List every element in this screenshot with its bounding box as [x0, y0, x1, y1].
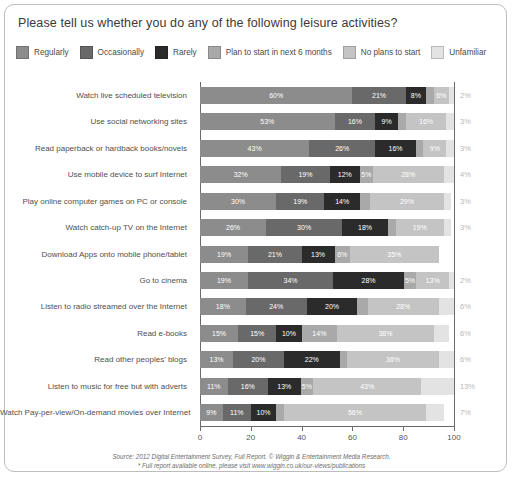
- bar-segment[interactable]: [444, 193, 452, 210]
- bar-segment[interactable]: 14%: [302, 325, 338, 342]
- category-label: Use social networking sites: [0, 113, 193, 130]
- bar-segment[interactable]: 9%: [375, 113, 398, 130]
- legend-occasionally[interactable]: Occasionally: [80, 46, 144, 59]
- bar-segment[interactable]: 53%: [200, 113, 335, 130]
- table-row[interactable]: 15%15%10%14%38%: [200, 325, 454, 342]
- bar-segment[interactable]: 19%: [281, 166, 329, 183]
- bar-segment[interactable]: 26%: [309, 140, 375, 157]
- bar-segment[interactable]: [439, 351, 454, 368]
- bar-segment[interactable]: [444, 219, 452, 236]
- bar-segment[interactable]: 19%: [200, 246, 248, 263]
- bar-segment[interactable]: [426, 87, 434, 104]
- bar-segment[interactable]: 60%: [200, 87, 352, 104]
- bar-segment[interactable]: [439, 298, 454, 315]
- bar-segment[interactable]: 16%: [375, 140, 416, 157]
- legend-no-plans[interactable]: No plans to start: [343, 46, 421, 59]
- table-row[interactable]: 19%21%13%6%35%: [200, 246, 454, 263]
- bar-segment[interactable]: 16%: [406, 113, 447, 130]
- bar-segment[interactable]: 12%: [330, 166, 360, 183]
- bar-segment[interactable]: 5%: [404, 272, 417, 289]
- bar-segment[interactable]: 21%: [248, 246, 301, 263]
- bar-segment[interactable]: [444, 166, 454, 183]
- bar-segment[interactable]: 9%: [200, 404, 223, 421]
- bar-segment[interactable]: 8%: [406, 87, 426, 104]
- bar-segment[interactable]: 34%: [248, 272, 334, 289]
- bar-segment[interactable]: 30%: [266, 219, 342, 236]
- bar-segment[interactable]: 16%: [335, 113, 376, 130]
- bar-segment[interactable]: 43%: [200, 140, 309, 157]
- bar-segment[interactable]: [446, 140, 454, 157]
- bar-segment[interactable]: 13%: [302, 246, 335, 263]
- bar-segment[interactable]: 13%: [268, 378, 301, 395]
- table-row[interactable]: 13%20%22%36%: [200, 351, 454, 368]
- bar-segment[interactable]: 22%: [284, 351, 340, 368]
- bar-segment[interactable]: 16%: [228, 378, 268, 395]
- bar-segment[interactable]: 20%: [233, 351, 284, 368]
- bar-segment[interactable]: 56%: [284, 404, 426, 421]
- bar-segment[interactable]: 14%: [324, 193, 360, 210]
- bar-segment[interactable]: 18%: [200, 298, 246, 315]
- table-row[interactable]: 30%19%14%29%: [200, 193, 454, 210]
- bar-segment[interactable]: [388, 219, 396, 236]
- bar-segment[interactable]: [446, 113, 454, 130]
- table-row[interactable]: 19%34%28%5%13%: [200, 272, 454, 289]
- x-axis-tick: [251, 426, 252, 431]
- bar-segment[interactable]: [276, 404, 284, 421]
- bar-segment[interactable]: [449, 272, 454, 289]
- table-row[interactable]: 53%16%9%16%: [200, 113, 454, 130]
- bar-segment[interactable]: 6%: [434, 87, 449, 104]
- bar-segment[interactable]: [416, 140, 424, 157]
- bar-segment[interactable]: 28%: [373, 166, 444, 183]
- bar-segment[interactable]: [340, 351, 348, 368]
- bar-segment[interactable]: 20%: [307, 298, 358, 315]
- category-label: Read e-books: [0, 325, 193, 342]
- bar-segment[interactable]: [398, 113, 406, 130]
- bar-segment[interactable]: 38%: [337, 325, 434, 342]
- bar-segment[interactable]: 21%: [352, 87, 405, 104]
- bar-segment[interactable]: 19%: [200, 272, 248, 289]
- legend-rarely[interactable]: Rarely: [155, 46, 197, 59]
- bar-segment[interactable]: 24%: [246, 298, 307, 315]
- bar-segment[interactable]: 32%: [200, 166, 281, 183]
- table-row[interactable]: 32%19%12%5%28%: [200, 166, 454, 183]
- bar-segment[interactable]: [360, 193, 370, 210]
- bar-segment[interactable]: 5%: [301, 378, 314, 395]
- bar-segment[interactable]: [421, 378, 454, 395]
- table-row[interactable]: 60%21%8%6%: [200, 87, 454, 104]
- bar-segment[interactable]: 26%: [200, 219, 266, 236]
- table-row[interactable]: 9%11%10%56%: [200, 404, 454, 421]
- bar-segment[interactable]: 6%: [335, 246, 350, 263]
- bar-segment[interactable]: 29%: [370, 193, 444, 210]
- bar-segment[interactable]: 11%: [223, 404, 251, 421]
- bar-segment[interactable]: 18%: [342, 219, 388, 236]
- bar-segment[interactable]: 43%: [313, 378, 421, 395]
- bar-segment[interactable]: 19%: [396, 219, 444, 236]
- bar-segment[interactable]: 5%: [360, 166, 373, 183]
- bar-segment[interactable]: 15%: [238, 325, 276, 342]
- bar-segment[interactable]: 35%: [350, 246, 439, 263]
- bar-segment[interactable]: 15%: [200, 325, 238, 342]
- table-row[interactable]: 11%16%13%5%43%: [200, 378, 454, 395]
- legend-regularly[interactable]: Regularly: [16, 46, 69, 59]
- bar-segment[interactable]: 10%: [276, 325, 301, 342]
- bar-segment[interactable]: [426, 404, 444, 421]
- table-row[interactable]: 43%26%16%9%: [200, 140, 454, 157]
- bar-segment[interactable]: [434, 325, 449, 342]
- table-row[interactable]: 26%30%18%19%: [200, 219, 454, 236]
- bar-segment[interactable]: 10%: [251, 404, 276, 421]
- bar-segment[interactable]: 13%: [416, 272, 449, 289]
- bar-segment[interactable]: [357, 298, 367, 315]
- bar-segment[interactable]: 11%: [200, 378, 228, 395]
- legend-swatch-icon: [343, 46, 356, 59]
- bar-segment[interactable]: 28%: [368, 298, 439, 315]
- legend-plan-to-start[interactable]: Plan to start in next 6 months: [208, 46, 332, 59]
- table-row[interactable]: 18%24%20%28%: [200, 298, 454, 315]
- bar-segment[interactable]: 9%: [423, 140, 446, 157]
- bar-segment[interactable]: 28%: [333, 272, 403, 289]
- bar-segment[interactable]: 13%: [200, 351, 233, 368]
- legend-unfamiliar[interactable]: Unfamiliar: [431, 46, 486, 59]
- bar-segment[interactable]: [449, 87, 454, 104]
- bar-segment[interactable]: 19%: [276, 193, 324, 210]
- bar-segment[interactable]: 36%: [347, 351, 438, 368]
- bar-segment[interactable]: 30%: [200, 193, 276, 210]
